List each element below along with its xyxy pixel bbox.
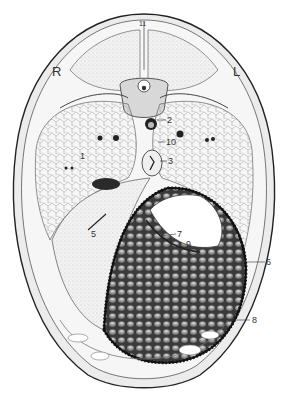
orientation-left-label: L <box>233 65 240 78</box>
orientation-right-label: R <box>52 65 61 78</box>
label-9: 9 <box>186 240 191 249</box>
label-8: 8 <box>252 316 257 325</box>
cross-section-illustration <box>0 0 288 404</box>
label-5: 5 <box>91 230 96 239</box>
label-10: 10 <box>166 138 176 147</box>
label-2: 2 <box>167 116 172 125</box>
label-6: 6 <box>266 258 271 267</box>
label-3: 3 <box>168 157 173 166</box>
label-7: 7 <box>177 230 182 239</box>
label-11: 11 <box>139 20 146 27</box>
label-1: 1 <box>80 152 85 161</box>
